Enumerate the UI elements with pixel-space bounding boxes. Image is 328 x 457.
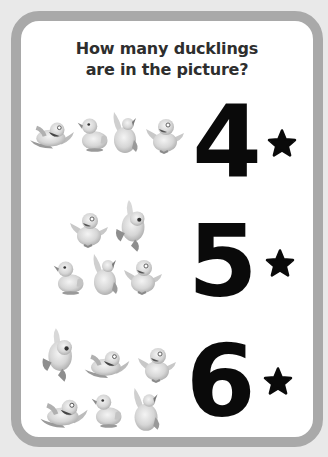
star-icon[interactable] <box>266 128 298 160</box>
duckling-icon <box>86 252 122 298</box>
duckling-icon <box>126 386 164 434</box>
star-icon[interactable] <box>264 248 296 280</box>
duckling-icon <box>90 386 124 432</box>
duckling-icon <box>106 110 142 156</box>
duckling-icon <box>38 326 78 386</box>
duckling-icon <box>66 206 112 252</box>
duckling-icon <box>52 254 86 298</box>
duckling-icon <box>142 114 188 156</box>
duckling-icon <box>134 342 180 386</box>
question-title: How many ducklings are in the picture? <box>11 38 323 80</box>
duckling-icon <box>82 346 132 380</box>
number-five: 5 <box>188 212 254 312</box>
number-four: 4 <box>190 92 264 192</box>
title-line-1: How many ducklings <box>11 38 323 59</box>
star-icon[interactable] <box>262 366 294 398</box>
duckling-icon <box>120 254 166 298</box>
duckling-icon <box>112 198 150 256</box>
duckling-icon <box>38 394 90 430</box>
number-six: 6 <box>186 332 252 432</box>
duckling-icon <box>76 112 110 154</box>
title-line-2: are in the picture? <box>11 59 323 80</box>
duckling-icon <box>28 116 76 152</box>
